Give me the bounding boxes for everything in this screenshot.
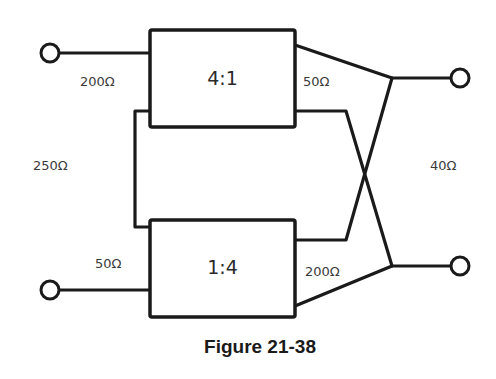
terminal-input-top-icon (41, 44, 59, 62)
terminal-input-bottom-icon (41, 281, 59, 299)
transformer-bottom-ratio: 1:4 (150, 256, 295, 278)
label-bottom-input-impedance: 50Ω (95, 256, 121, 271)
circuit-diagram (0, 0, 496, 379)
wire-series-link (135, 111, 150, 227)
figure-caption: Figure 21-38 (0, 336, 496, 358)
terminal-output-bottom-icon (451, 257, 469, 275)
transformer-top-ratio: 4:1 (150, 67, 295, 89)
label-series-link-impedance: 250Ω (33, 158, 68, 173)
terminal-output-top-icon (451, 69, 469, 87)
label-top-input-impedance: 200Ω (80, 74, 115, 89)
label-load-impedance: 40Ω (430, 158, 456, 173)
label-top-output-impedance: 50Ω (303, 74, 329, 89)
label-bottom-output-impedance: 200Ω (305, 264, 340, 279)
